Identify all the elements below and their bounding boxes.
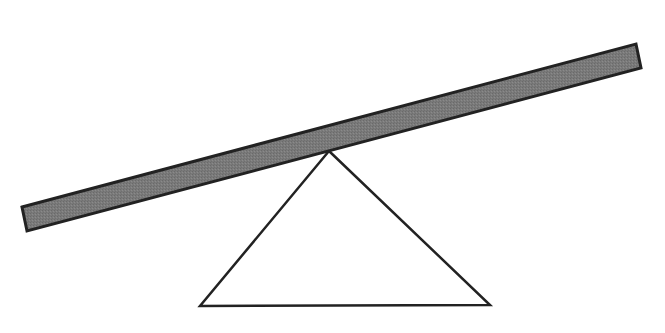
seesaw-diagram (0, 0, 665, 333)
